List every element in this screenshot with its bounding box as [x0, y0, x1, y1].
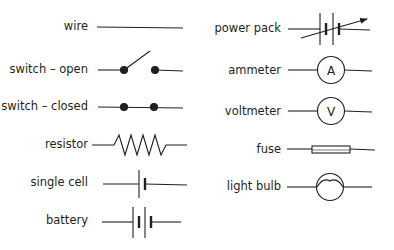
resistor-symbol [92, 135, 187, 155]
voltmeter-symbol: V [288, 98, 372, 125]
switch-open-symbol [98, 51, 183, 74]
switch-closed-symbol [98, 104, 183, 111]
battery-symbol [102, 207, 181, 238]
circuit-symbols-canvas: A V [0, 0, 394, 250]
light-bulb-symbol [287, 174, 372, 201]
wire-symbol [97, 27, 183, 28]
voltmeter-letter: V [327, 105, 336, 119]
power-pack-symbol [288, 13, 370, 45]
ammeter-symbol: A [288, 57, 372, 84]
ammeter-letter: A [327, 64, 336, 78]
single-cell-symbol [103, 170, 187, 198]
fuse-symbol [287, 146, 375, 153]
